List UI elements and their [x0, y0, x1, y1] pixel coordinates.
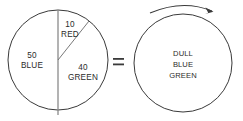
slice-red-amount: 10 — [65, 20, 75, 29]
diagram-canvas: 50 BLUE 40 GREEN 10 RED DULL — [0, 0, 243, 121]
slice-label-blue: 50 BLUE — [21, 51, 44, 70]
result-text: DULL BLUE GREEN — [169, 49, 197, 80]
slice-blue-color: BLUE — [21, 61, 44, 70]
slice-blue-amount: 50 — [27, 51, 37, 60]
slice-label-red: 10 RED — [61, 20, 79, 39]
color-mixing-diagram: 50 BLUE 40 GREEN 10 RED DULL — [0, 0, 243, 121]
result-line-2: BLUE — [173, 60, 193, 69]
slice-green-amount: 40 — [78, 63, 88, 72]
result-line-3: GREEN — [169, 71, 197, 80]
equals-bar-top — [113, 58, 124, 60]
slice-red-color: RED — [61, 30, 79, 39]
result-line-1: DULL — [173, 49, 193, 58]
rotation-arrow-head — [205, 7, 214, 14]
slice-label-green: 40 GREEN — [68, 63, 98, 82]
rotation-arrow-curve — [150, 5, 212, 13]
equals-bar-bottom — [113, 64, 124, 66]
clockwise-rotation-arrow — [150, 5, 214, 14]
equals-sign — [113, 58, 124, 65]
slice-green-color: GREEN — [68, 73, 98, 82]
